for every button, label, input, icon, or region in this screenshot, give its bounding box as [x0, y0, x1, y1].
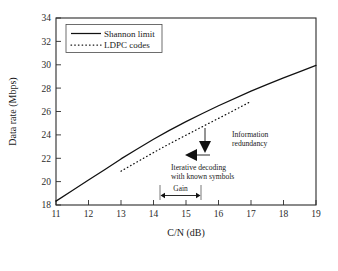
y-axis-title: Data rate (Mbps): [7, 77, 19, 145]
x-axis-title: C/N (dB): [167, 227, 205, 239]
legend-label-ldpc-codes: LDPC codes: [104, 40, 150, 50]
gain-label: Gain: [173, 184, 188, 193]
information-redundancy-line-2: redundancy: [232, 139, 268, 148]
y-tick-label: 20: [42, 177, 52, 187]
x-tick-label: 17: [246, 209, 256, 219]
y-tick-label: 32: [42, 37, 52, 47]
information-redundancy-line-1: Information: [232, 130, 268, 139]
chart-figure: 18 20 22 24 26 28 30 32 34 11 12 13: [0, 0, 338, 271]
x-tick-label: 15: [181, 209, 191, 219]
x-tick-label: 19: [311, 209, 321, 219]
x-tick-label: 18: [279, 209, 289, 219]
y-tick-label: 34: [42, 13, 52, 23]
legend-label-shannon-limit: Shannon limit: [104, 29, 155, 39]
chart-svg: 18 20 22 24 26 28 30 32 34 11 12 13: [0, 0, 338, 271]
x-tick-label: 14: [149, 209, 159, 219]
x-axis-tick-labels: 11 12 13 14 15 16 17 18 19: [51, 209, 321, 219]
y-tick-label: 24: [42, 130, 52, 140]
y-tick-label: 22: [42, 154, 52, 164]
y-tick-label: 30: [42, 60, 52, 70]
y-axis-tick-labels: 18 20 22 24 26 28 30 32 34: [42, 13, 52, 210]
y-tick-label: 18: [42, 200, 52, 210]
x-tick-label: 12: [84, 209, 94, 219]
x-tick-label: 13: [116, 209, 126, 219]
y-tick-label: 26: [42, 107, 52, 117]
iterative-decoding-line-1: Iterative decoding: [171, 163, 226, 172]
iterative-decoding-line-2: with known symbols: [171, 172, 234, 181]
legend: Shannon limit LDPC codes: [66, 25, 162, 53]
x-tick-label: 11: [51, 209, 60, 219]
y-tick-label: 28: [42, 84, 52, 94]
x-tick-label: 16: [214, 209, 224, 219]
